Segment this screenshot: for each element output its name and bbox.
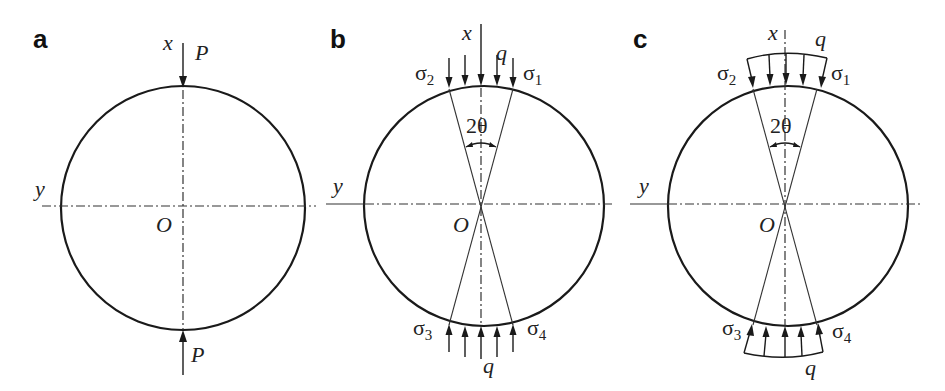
up-arrowhead-icon [478,326,485,337]
down-arrowhead-icon [510,77,517,88]
panel-label-a: a [33,24,48,54]
up-arrowhead-icon [798,326,805,337]
sigma4-label: σ4 [832,318,852,346]
angle-arrowhead-icon [770,142,777,147]
center-label: O [453,212,469,237]
panel-a: a x P P y O [33,24,316,375]
top-load-label: P [194,40,208,65]
up-arrowhead-icon [747,324,755,336]
down-arrowhead-icon [783,73,790,85]
down-arrowhead-icon [462,75,469,86]
bottom-radial-load [744,323,823,357]
sigma2-label: σ2 [415,60,434,88]
y-axis-label: y [637,173,649,198]
x-axis-label: x [767,20,778,45]
down-arrowhead-icon [494,75,501,86]
sigma1-label: σ1 [523,60,542,88]
center-label: O [759,212,775,237]
down-arrowhead-icon [478,74,485,86]
up-arrowhead-icon [179,330,187,342]
down-arrowhead-icon [819,76,827,88]
x-axis-label: x [461,20,472,45]
sigma3-label: σ3 [722,315,741,343]
angle-arrowhead-icon [466,142,473,147]
down-arrowhead-icon [446,77,453,88]
bottom-load-label: q [483,353,494,378]
angle-label: 2θ [770,113,792,138]
angle-label: 2θ [466,113,488,138]
bottom-load-label: q [805,355,816,380]
up-arrowhead-icon [510,324,517,335]
disc-outline [61,86,305,330]
down-arrowhead-icon [800,74,807,86]
top-load-label: q [496,40,507,65]
sigma2-label: σ2 [717,60,736,88]
sigma3-label: σ3 [413,315,432,343]
top-radial-load [747,53,827,88]
up-arrowhead-icon [494,326,501,337]
panel-label-c: c [633,24,647,54]
angle-arrowhead-icon [793,142,800,147]
up-arrowhead-icon [446,324,453,335]
up-arrowhead-icon [763,326,770,337]
angle-arrowhead-icon [489,142,496,147]
sigma1-label: σ1 [831,60,850,88]
sigma4-label: σ4 [527,315,547,343]
bottom-distributed-load [446,324,517,359]
bottom-load-label: P [190,342,204,367]
down-arrowhead-icon [767,74,774,86]
disc-loading-figure: a x P P y O b 2θ [0,0,945,391]
panel-b: b 2θ [326,20,614,378]
panel-label-b: b [330,24,346,54]
center-label: O [156,212,172,237]
y-axis-label: y [33,176,45,201]
y-axis-label: y [331,173,343,198]
panel-c: c 2θ [630,20,921,380]
up-arrowhead-icon [462,326,469,337]
up-arrowhead-icon [782,326,789,337]
x-axis-label: x [162,30,173,55]
top-load-label: q [815,26,826,51]
load-envelope [747,53,827,59]
down-arrowhead-icon [748,76,756,88]
